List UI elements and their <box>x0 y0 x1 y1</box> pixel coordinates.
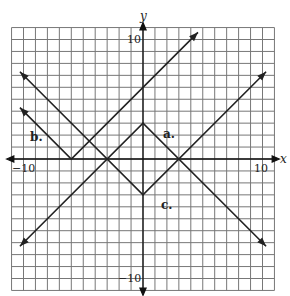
y-tick-10: 10 <box>127 34 141 45</box>
graph-label-c: c. <box>161 199 172 211</box>
x-tick-10: 10 <box>254 163 268 174</box>
graph-label-a: a. <box>163 128 175 140</box>
y-axis-arrow-up-icon <box>140 23 146 30</box>
y-axis-label: y <box>140 10 147 22</box>
y-axis-arrow-down-icon <box>140 288 146 295</box>
x-tick-neg10: −10 <box>12 163 35 174</box>
y-tick-neg10: −10 <box>118 273 141 284</box>
x-axis-label: x <box>280 153 287 165</box>
coordinate-plane <box>0 0 290 296</box>
x-axis-arrow-right-icon <box>272 156 279 162</box>
graph-label-b: b. <box>30 131 43 143</box>
